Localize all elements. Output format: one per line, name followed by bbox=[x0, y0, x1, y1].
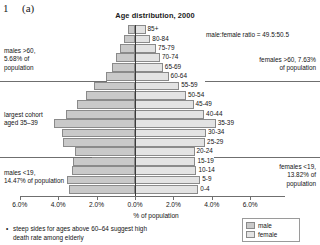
guide-line-over60-right bbox=[205, 81, 320, 82]
age-group-label: 55-59 bbox=[181, 80, 197, 90]
age-group-label: 45-49 bbox=[196, 99, 212, 109]
x-axis-line bbox=[20, 196, 285, 197]
pyramid-row: 25-29 bbox=[20, 138, 285, 147]
bar-female bbox=[135, 100, 194, 109]
bar-male bbox=[63, 138, 135, 147]
annotation-largest-cohort: largest cohort aged 35–39 bbox=[4, 111, 66, 128]
annotation-males-over-60-line1: males >60, bbox=[4, 47, 35, 54]
x-tick bbox=[135, 196, 136, 200]
bar-female bbox=[135, 185, 198, 194]
legend-label-male: male bbox=[258, 222, 272, 229]
guide-line-under19-right bbox=[214, 157, 320, 158]
bar-female bbox=[135, 91, 186, 100]
bar-male bbox=[112, 63, 135, 72]
chart-title: Age distribution, 2000 bbox=[90, 11, 220, 20]
pyramid-row: 50-54 bbox=[20, 91, 285, 100]
bar-female bbox=[135, 35, 150, 44]
pyramid-row: 30-34 bbox=[20, 129, 285, 138]
age-group-label: 85+ bbox=[148, 24, 159, 34]
annotation-females-under-19-line2: 13.82% of bbox=[287, 171, 316, 178]
bar-female bbox=[135, 119, 216, 128]
age-group-label: 60-64 bbox=[171, 71, 187, 81]
annotation-males-over-60-line3: population bbox=[4, 64, 34, 71]
bar-male bbox=[106, 72, 135, 81]
x-tick-label: 2.0% bbox=[156, 201, 190, 208]
bar-female bbox=[135, 53, 160, 62]
x-tick-label: 6.0% bbox=[3, 201, 37, 208]
age-group-label: 10-14 bbox=[198, 165, 214, 175]
bar-female bbox=[135, 25, 146, 34]
x-tick-label: 4.0% bbox=[41, 201, 75, 208]
legend-label-female: female bbox=[258, 231, 277, 238]
age-group-label: 25-29 bbox=[207, 137, 223, 147]
note-line2: death rate among elderly bbox=[6, 233, 206, 242]
bar-female bbox=[135, 176, 200, 185]
age-group-label: 0-4 bbox=[200, 184, 209, 194]
figure-panel: 1 (a) Age distribution, 2000 0-45-910-14… bbox=[0, 0, 320, 245]
bar-female bbox=[135, 166, 196, 175]
x-axis-label: % of population bbox=[96, 212, 216, 219]
bar-female bbox=[135, 129, 206, 138]
pyramid-row: 45-49 bbox=[20, 100, 285, 109]
annotation-males-under-19-line1: males <19, bbox=[4, 169, 35, 176]
annotation-largest-cohort-line1: largest cohort bbox=[4, 111, 43, 118]
chart-legend: malefemale bbox=[242, 218, 300, 242]
age-group-label: 35-39 bbox=[218, 118, 234, 128]
age-group-label: 20-24 bbox=[197, 146, 213, 156]
legend-swatch-female bbox=[246, 231, 255, 238]
note-bullet: • bbox=[6, 224, 8, 233]
x-tick-label: 0.0% bbox=[118, 201, 152, 208]
age-group-label: 70-74 bbox=[162, 52, 178, 62]
age-group-label: 5-9 bbox=[202, 174, 211, 184]
pyramid-row: 20-24 bbox=[20, 147, 285, 156]
annotation-females-under-19-line1: females <19, bbox=[279, 163, 316, 170]
bar-male bbox=[75, 147, 135, 156]
pyramid-row: 55-59 bbox=[20, 82, 285, 91]
bar-male bbox=[77, 100, 135, 109]
annotation-males-under-19-line2: 14.47% of population bbox=[4, 177, 64, 184]
bar-male bbox=[86, 91, 135, 100]
note-line1: steep sides for ages above 60–64 suggest… bbox=[6, 224, 206, 233]
bar-male bbox=[62, 129, 135, 138]
bar-male bbox=[116, 53, 135, 62]
annotation-males-under-19: males <19, 14.47% of population bbox=[4, 169, 96, 186]
bar-female bbox=[135, 157, 195, 166]
bar-male bbox=[73, 157, 135, 166]
annotation-largest-cohort-line2: aged 35–39 bbox=[4, 119, 38, 126]
x-tick bbox=[250, 196, 251, 200]
figure-letter: (a) bbox=[22, 2, 34, 14]
guide-line-under19 bbox=[0, 157, 92, 158]
bar-male bbox=[94, 82, 135, 91]
x-tick bbox=[212, 196, 213, 200]
bar-female bbox=[135, 63, 163, 72]
bar-female bbox=[135, 138, 205, 147]
legend-item[interactable]: female bbox=[246, 230, 296, 239]
bar-female bbox=[135, 44, 156, 53]
x-tick bbox=[20, 196, 21, 200]
bar-male bbox=[66, 110, 135, 119]
bar-female bbox=[135, 72, 169, 81]
bar-male bbox=[124, 35, 135, 44]
annotation-females-under-19-line3: population bbox=[287, 180, 317, 187]
age-group-label: 30-34 bbox=[208, 127, 224, 137]
x-tick-label: 6.0% bbox=[233, 201, 267, 208]
center-axis-line bbox=[135, 25, 136, 197]
legend-item[interactable]: male bbox=[246, 221, 296, 230]
bar-female bbox=[135, 82, 179, 91]
bar-male bbox=[54, 119, 135, 128]
x-tick bbox=[97, 196, 98, 200]
age-group-label: 80-84 bbox=[152, 34, 168, 44]
legend-swatch-male bbox=[246, 222, 255, 229]
age-group-label: 15-19 bbox=[197, 156, 213, 166]
x-tick-label: 2.0% bbox=[80, 201, 114, 208]
bar-male bbox=[69, 185, 135, 194]
x-tick bbox=[173, 196, 174, 200]
age-group-label: 50-54 bbox=[188, 90, 204, 100]
x-tick bbox=[58, 196, 59, 200]
bar-female bbox=[135, 110, 204, 119]
figure-number: 1 bbox=[3, 2, 9, 14]
bar-female bbox=[135, 147, 195, 156]
annotation-males-over-60: males >60, 5.68% of population bbox=[4, 47, 66, 72]
bar-male bbox=[120, 44, 135, 53]
annotation-females-over-60: females >60, 7.63% of population bbox=[200, 56, 316, 73]
